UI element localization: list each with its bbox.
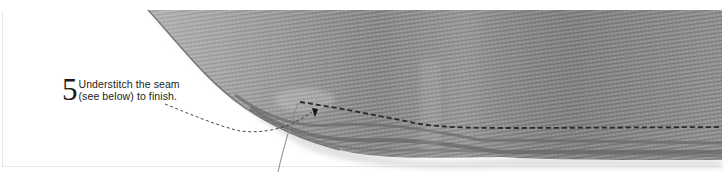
step-number: 5 bbox=[62, 77, 78, 103]
step-text-line1: Understitch the seam bbox=[79, 78, 180, 90]
instruction-panel: 5 Understitch the seam (see below) to fi… bbox=[0, 0, 728, 172]
step-text-line2: (see below) to finish. bbox=[79, 90, 180, 102]
instruction-step: 5 Understitch the seam (see below) to fi… bbox=[62, 77, 180, 103]
step-text: Understitch the seam (see below) to fini… bbox=[79, 77, 180, 102]
